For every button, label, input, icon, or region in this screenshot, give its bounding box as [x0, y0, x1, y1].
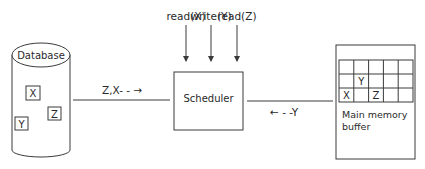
scheduler-box: Scheduler: [174, 72, 243, 130]
database-cylinder: Database X Z Y: [12, 43, 70, 157]
scheduler-label: Scheduler: [183, 93, 234, 104]
buffer-cell-x: X: [343, 90, 350, 101]
main-memory-buffer: Y X Z Main memory buffer: [336, 45, 415, 159]
operation-read-z: read(Z): [217, 10, 256, 22]
flow-label-db-to-scheduler: Z,X- - →: [102, 84, 142, 96]
database-item-y: Y: [15, 117, 28, 130]
flow-label-buffer-to-scheduler: ← - -Y: [270, 106, 299, 118]
svg-text:X: X: [30, 88, 37, 99]
database-item-z: Z: [48, 107, 61, 120]
svg-text:Z: Z: [51, 109, 58, 120]
svg-text:Y: Y: [17, 119, 25, 130]
buffer-cell-y: Y: [357, 76, 365, 87]
buffer-cell-z: Z: [373, 90, 380, 101]
scheduler-diagram: read(X) write(Y) read(Z) Database X Z Y …: [0, 0, 425, 169]
buffer-label-line2: buffer: [342, 121, 370, 132]
operations: read(X) write(Y) read(Z): [166, 10, 256, 61]
buffer-label-line1: Main memory: [342, 109, 408, 120]
database-label: Database: [17, 50, 65, 61]
database-item-x: X: [26, 86, 40, 100]
